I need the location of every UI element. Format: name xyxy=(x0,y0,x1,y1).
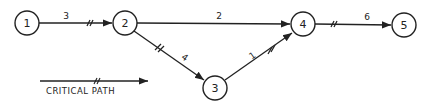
node-label: 4 xyxy=(300,18,307,31)
edge-weight: 3 xyxy=(63,11,69,21)
legend: CRITICAL PATH xyxy=(40,78,148,96)
edge-3-4: 1 xyxy=(225,33,292,80)
legend-label: CRITICAL PATH xyxy=(46,86,115,96)
node-label: 1 xyxy=(24,17,31,30)
edge-weight: 6 xyxy=(364,12,370,22)
node-label: 2 xyxy=(122,17,129,30)
node-3: 3 xyxy=(203,76,227,100)
node-2: 2 xyxy=(113,11,137,35)
edge-4-5: 6 xyxy=(315,12,391,27)
node-label: 5 xyxy=(401,19,408,32)
node-1: 1 xyxy=(15,11,39,35)
edge-1-2: 3 xyxy=(39,11,112,26)
node-label: 3 xyxy=(212,82,219,95)
edge-weight: 1 xyxy=(247,50,257,61)
network-diagram: 3 2 4 1 6 1 2 xyxy=(0,0,428,106)
edge-2-4: 2 xyxy=(137,11,290,24)
node-4: 4 xyxy=(291,12,315,36)
edge-2-3: 4 xyxy=(134,31,204,80)
node-5: 5 xyxy=(392,13,416,37)
edge-weight: 2 xyxy=(216,11,222,21)
edge-weight: 4 xyxy=(180,52,191,64)
